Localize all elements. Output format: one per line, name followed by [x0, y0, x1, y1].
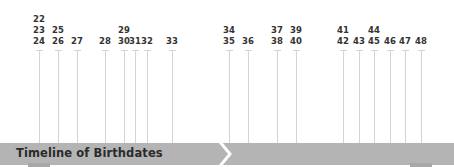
marker-label: 22: [33, 14, 45, 25]
marker-labels: 33: [160, 36, 184, 47]
marker-stem: [405, 51, 406, 143]
marker-labels: 48: [409, 36, 433, 47]
marker-label: 24: [33, 36, 45, 47]
marker-label: 37: [271, 25, 283, 36]
marker-stem: [248, 51, 249, 143]
marker-stem: [229, 51, 230, 143]
marker-stem: [421, 51, 422, 143]
marker-label: 32: [141, 36, 153, 47]
marker-stem: [172, 51, 173, 143]
marker-stem: [374, 51, 375, 143]
marker-label: 38: [271, 36, 283, 47]
marker-label: 41: [337, 25, 349, 36]
marker-label: 28: [99, 36, 111, 47]
marker-label: 36: [242, 36, 254, 47]
marker-label: 27: [71, 36, 83, 47]
marker-label: 44: [368, 25, 380, 36]
marker-label: 35: [223, 36, 235, 47]
marker-labels: 32: [135, 36, 159, 47]
timeline-marker: 4445: [374, 0, 375, 167]
marker-label: 34: [223, 25, 235, 36]
marker-stem: [147, 51, 148, 143]
marker-stem: [359, 51, 360, 143]
timeline-marker: 27: [77, 0, 78, 167]
timeline-diagram: 2223242526272829303132333435363738394041…: [0, 0, 454, 167]
timeline-marker: 2930: [124, 0, 125, 167]
timeline-marker: 31: [135, 0, 136, 167]
timeline-marker: 222324: [39, 0, 40, 167]
marker-labels: 3940: [284, 25, 308, 47]
marker-stem: [343, 51, 344, 143]
timeline-marker: 43: [359, 0, 360, 167]
timeline-marker: 47: [405, 0, 406, 167]
timeline-marker: 48: [421, 0, 422, 167]
marker-stem: [77, 51, 78, 143]
marker-stem: [296, 51, 297, 143]
marker-label: 48: [415, 36, 427, 47]
timeline-marker: 46: [390, 0, 391, 167]
marker-label: 25: [52, 25, 64, 36]
timeline-marker: 4142: [343, 0, 344, 167]
marker-label: 39: [290, 25, 302, 36]
timeline-title: Timeline of Birthdates: [16, 146, 163, 160]
marker-label: 29: [118, 25, 130, 36]
timeline-marker: 3940: [296, 0, 297, 167]
marker-stem: [390, 51, 391, 143]
timeline-marker: 3738: [277, 0, 278, 167]
marker-stem: [135, 51, 136, 143]
timeline-marker: 28: [105, 0, 106, 167]
timeline-marker: 36: [248, 0, 249, 167]
marker-stem: [58, 51, 59, 143]
marker-stem: [124, 51, 125, 143]
marker-label: 40: [290, 36, 302, 47]
chevron-right-icon: [212, 138, 236, 167]
bar-tab-right: [410, 163, 432, 167]
marker-stem: [39, 51, 40, 143]
bar-tab-left: [28, 163, 50, 167]
marker-label: 26: [52, 36, 64, 47]
timeline-marker: 32: [147, 0, 148, 167]
marker-labels: 36: [236, 36, 260, 47]
marker-stem: [277, 51, 278, 143]
marker-labels: 27: [65, 36, 89, 47]
timeline-marker: 2526: [58, 0, 59, 167]
timeline-marker: 33: [172, 0, 173, 167]
marker-label: 33: [166, 36, 178, 47]
marker-stem: [105, 51, 106, 143]
marker-label: 23: [33, 25, 45, 36]
